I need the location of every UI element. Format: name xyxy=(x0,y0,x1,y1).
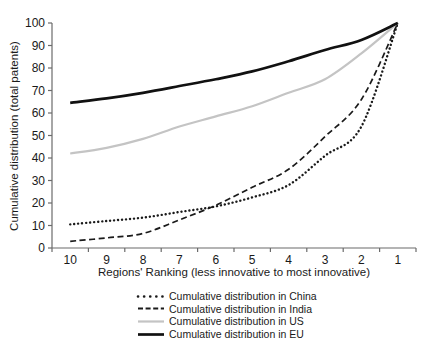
legend-label-india: Cumulative distribution in India xyxy=(169,303,312,315)
x-tick-label: 5 xyxy=(249,253,256,267)
y-tick-label: 90 xyxy=(32,39,46,53)
x-tick-label: 8 xyxy=(140,253,147,267)
x-tick-label: 1 xyxy=(394,253,401,267)
y-tick-label: 80 xyxy=(32,61,46,75)
legend-label-eu: Cumulative distribution in EU xyxy=(169,328,304,340)
x-tick-label: 10 xyxy=(64,253,78,267)
plot-area: 010203040506070809010010987654321 xyxy=(0,0,433,282)
x-tick-label: 4 xyxy=(285,253,292,267)
x-axis-title: Regions' Ranking (less innovative to mos… xyxy=(52,266,416,278)
patents-cumulative-distribution-chart: Cumulative distribution (total patents) … xyxy=(0,0,433,351)
legend-marker-china xyxy=(136,292,166,301)
y-tick-label: 40 xyxy=(32,151,46,165)
series-line-india xyxy=(70,23,398,241)
x-tick-label: 7 xyxy=(176,253,183,267)
legend-item-china: Cumulative distribution in China xyxy=(136,290,317,303)
chart-legend: Cumulative distribution in ChinaCumulati… xyxy=(136,290,317,340)
legend-label-us: Cumulative distribution in US xyxy=(169,315,304,327)
y-tick-label: 10 xyxy=(32,219,46,233)
x-tick-label: 2 xyxy=(358,253,365,267)
legend-marker-india xyxy=(136,304,166,313)
y-tick-label: 20 xyxy=(32,196,46,210)
y-tick-label: 0 xyxy=(38,241,45,255)
legend-item-india: Cumulative distribution in India xyxy=(136,303,317,316)
legend-marker-eu xyxy=(136,330,166,339)
legend-item-eu: Cumulative distribution in EU xyxy=(136,328,317,341)
x-tick-label: 3 xyxy=(322,253,329,267)
y-tick-label: 50 xyxy=(32,129,46,143)
y-tick-label: 100 xyxy=(25,16,45,30)
y-tick-label: 60 xyxy=(32,106,46,120)
legend-marker-us xyxy=(136,317,166,326)
x-tick-label: 6 xyxy=(212,253,219,267)
legend-label-china: Cumulative distribution in China xyxy=(169,290,317,302)
series-line-china xyxy=(70,23,398,224)
x-tick-label: 9 xyxy=(103,253,110,267)
y-tick-label: 30 xyxy=(32,174,46,188)
legend-item-us: Cumulative distribution in US xyxy=(136,315,317,328)
y-tick-label: 70 xyxy=(32,84,46,98)
